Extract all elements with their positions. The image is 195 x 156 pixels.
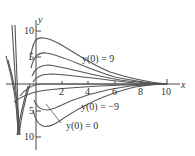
curve-y0-neg3: [14, 84, 167, 102]
solution-curves-plot: 2 4 6 8 10 x 10 5 5 10 y y(0) = 9 y(0) =…: [0, 0, 195, 156]
annotation-leader-line: [46, 104, 61, 123]
y-tick-10: 10: [24, 25, 34, 36]
x-tick-4: 4: [85, 86, 90, 97]
y-tick-5: 5: [29, 51, 34, 62]
x-tick-2: 2: [59, 86, 64, 97]
solution-curves: [14, 38, 167, 127]
y-axis-label: y: [37, 14, 43, 25]
steep-curves: [6, 25, 30, 135]
y-tick-neg5: 5: [29, 105, 34, 116]
annotation-y0-9: y(0) = 9: [82, 53, 114, 65]
y-tick-neg10: 10: [24, 131, 34, 142]
annotation-y0-0: y(0) = 0: [66, 120, 98, 132]
annotation-y0-neg9: y(0) = −9: [81, 101, 119, 113]
x-tick-10: 10: [161, 86, 171, 97]
x-axis-label: x: [180, 79, 186, 90]
x-tick-8: 8: [138, 86, 143, 97]
x-tick-6: 6: [112, 86, 117, 97]
